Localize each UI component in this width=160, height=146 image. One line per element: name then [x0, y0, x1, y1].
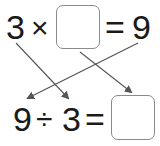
arrow-9-icon — [28, 43, 138, 98]
bottom-equals: = — [85, 102, 105, 136]
bottom-answer-box[interactable] — [111, 95, 155, 140]
bottom-operator-divide: ÷ — [36, 102, 52, 136]
bottom-operand-9: 9 — [13, 102, 32, 136]
bottom-operand-3: 3 — [62, 102, 81, 136]
arrow-box-icon — [80, 52, 131, 92]
arrow-3-icon — [16, 43, 68, 98]
fact-family-diagram: 3 × = 9 9 ÷ 3 = — [0, 0, 160, 146]
